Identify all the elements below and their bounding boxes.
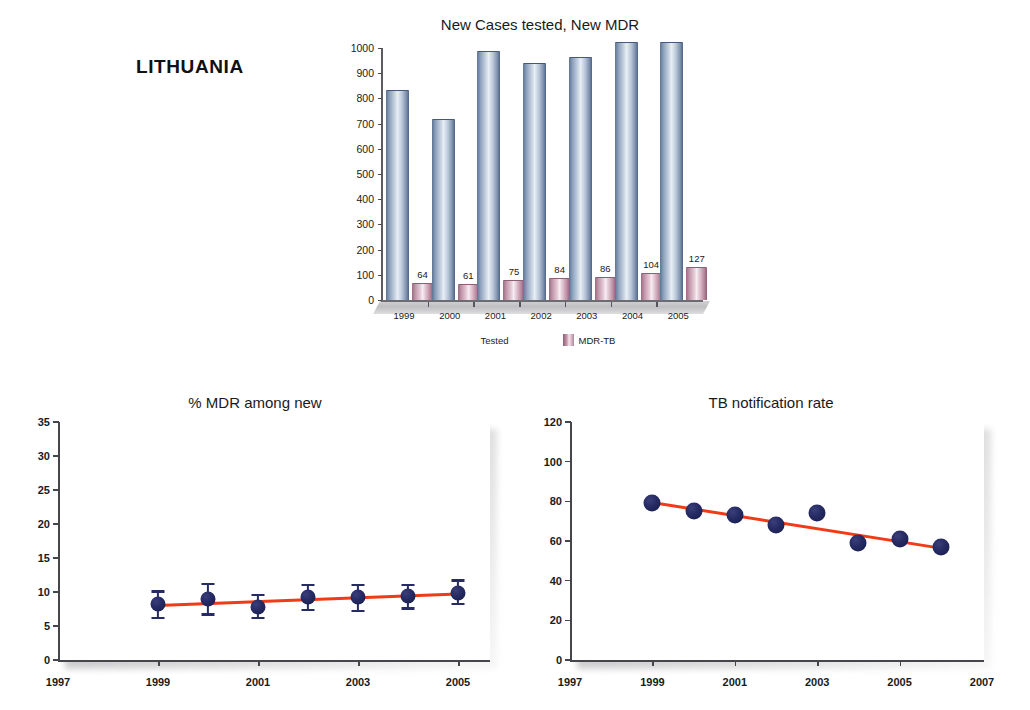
bar-y-tick-label: 0 — [368, 294, 374, 306]
x-tick-label: 2005 — [446, 676, 470, 688]
tb-scatter-chart: TB notification rate 0204060801001201997… — [512, 382, 1030, 710]
y-tick-label: 20 — [16, 518, 50, 530]
bar-tested — [386, 90, 409, 300]
y-tick-mark — [53, 523, 59, 525]
bar-y-tick-mark — [378, 73, 382, 74]
x-tick-mark — [258, 660, 260, 666]
mdr-swatch-icon — [563, 334, 574, 346]
legend-label-mdr: MDR-TB — [579, 335, 616, 346]
bar-mdr — [412, 283, 433, 300]
error-bar-cap — [202, 613, 215, 615]
bar-tested — [477, 51, 500, 300]
bar-x-tick-label: 1999 — [393, 310, 414, 321]
x-tick-mark — [900, 660, 902, 666]
bar-value-label: 84 — [554, 264, 565, 275]
bar-y-tick-mark — [378, 224, 382, 225]
y-tick-mark — [53, 591, 59, 593]
y-tick-mark — [53, 421, 59, 423]
bar-y-tick-mark — [378, 174, 382, 175]
country-title: LITHUANIA — [136, 56, 244, 78]
data-point — [685, 503, 702, 520]
bar-value-label: 75 — [509, 266, 520, 277]
bar-y-tick-label: 100 — [356, 269, 374, 281]
error-bar-cap — [452, 603, 465, 605]
bar-value-label: 104 — [643, 259, 659, 270]
error-bar-cap — [452, 579, 465, 581]
y-tick-label: 35 — [16, 416, 50, 428]
error-bar-cap — [152, 617, 165, 619]
x-tick-label: 1997 — [558, 676, 582, 688]
y-tick-label: 40 — [528, 575, 562, 587]
tb-chart-plot — [570, 422, 984, 662]
bar-y-tick-label: 200 — [356, 244, 374, 256]
y-tick-mark — [565, 421, 571, 423]
bar-y-tick-label: 600 — [356, 143, 374, 155]
bar-tested — [569, 57, 592, 300]
y-tick-mark — [565, 580, 571, 582]
legend-item-tested: Tested — [465, 334, 509, 346]
x-tick-mark — [158, 660, 160, 666]
x-tick-label: 2007 — [970, 676, 994, 688]
bar-x-tick-label: 2004 — [622, 310, 643, 321]
bar-y-tick-label: 800 — [356, 92, 374, 104]
y-tick-label: 10 — [16, 586, 50, 598]
mdr-chart-plot — [58, 422, 490, 662]
bar-y-tick-label: 300 — [356, 218, 374, 230]
bar-tested — [523, 63, 546, 300]
error-bar-cap — [402, 584, 415, 586]
data-point — [809, 505, 826, 522]
data-point — [351, 589, 366, 604]
error-bar-cap — [302, 609, 315, 611]
x-tick-label: 1997 — [46, 676, 70, 688]
bar-x-tick-mark — [519, 302, 521, 307]
error-bar-cap — [252, 594, 265, 596]
bar-x-tick-label: 2002 — [531, 310, 552, 321]
y-tick-mark — [565, 540, 571, 542]
data-point — [251, 599, 266, 614]
x-tick-mark — [652, 660, 654, 666]
y-tick-mark — [565, 461, 571, 463]
y-tick-mark — [53, 659, 59, 661]
bar-mdr — [549, 278, 570, 300]
error-bar-cap — [252, 617, 265, 619]
bar-chart-title: New Cases tested, New MDR — [340, 16, 740, 33]
bar-tested — [660, 42, 683, 300]
bar-mdr — [595, 277, 616, 300]
y-tick-label: 30 — [16, 450, 50, 462]
bar-chart: New Cases tested, New MDR 01002003004005… — [340, 8, 740, 358]
error-bar-cap — [352, 584, 365, 586]
y-tick-label: 60 — [528, 535, 562, 547]
y-tick-mark — [53, 557, 59, 559]
bar-x-tick-mark — [473, 302, 475, 307]
bar-y-tick-mark — [378, 149, 382, 150]
bar-y-tick-mark — [378, 300, 382, 301]
y-tick-mark — [565, 659, 571, 661]
bar-y-tick-mark — [378, 124, 382, 125]
legend-item-mdr: MDR-TB — [563, 334, 616, 346]
bar-y-tick-label: 900 — [356, 67, 374, 79]
bar-chart-y-axis: 01002003004005006007008009001000 — [340, 48, 380, 300]
poster-page: LITHUANIA New Cases tested, New MDR 0100… — [0, 0, 1030, 710]
bar-x-tick-label: 2003 — [576, 310, 597, 321]
x-tick-label: 2001 — [723, 676, 747, 688]
y-tick-mark — [53, 489, 59, 491]
y-tick-label: 0 — [528, 654, 562, 666]
x-tick-label: 2003 — [346, 676, 370, 688]
error-bar-cap — [202, 583, 215, 585]
bar-y-tick-label: 700 — [356, 118, 374, 130]
bar-value-label: 61 — [463, 270, 474, 281]
data-point — [451, 585, 466, 600]
bar-x-tick-label: 2000 — [439, 310, 460, 321]
bar-mdr — [641, 273, 662, 300]
bar-group — [386, 48, 432, 300]
bar-tested — [615, 42, 638, 300]
tested-swatch-icon — [465, 334, 476, 346]
bar-y-tick-mark — [378, 48, 382, 49]
data-point — [768, 517, 785, 534]
data-point — [301, 589, 316, 604]
bar-mdr — [503, 280, 524, 300]
bar-group — [432, 48, 478, 300]
y-tick-mark — [565, 620, 571, 622]
y-tick-label: 20 — [528, 614, 562, 626]
bar-value-label: 127 — [689, 253, 705, 264]
